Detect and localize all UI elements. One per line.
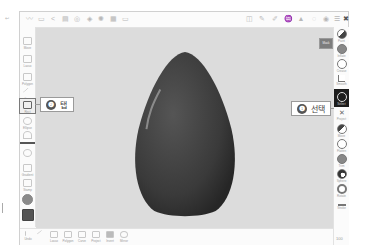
tool-polygon[interactable]: Polygon	[20, 73, 35, 86]
side-mark	[2, 203, 6, 213]
curve-button[interactable]: Curve	[76, 231, 88, 243]
sculpt-canvas[interactable]: Mask	[36, 28, 333, 228]
tool-select[interactable]: Select	[334, 89, 349, 107]
document-icon[interactable]: ▤	[61, 15, 69, 23]
tool-paint[interactable]: Paint	[334, 29, 349, 43]
divider	[20, 142, 35, 144]
curve-icon	[78, 231, 86, 238]
move-brush-icon	[337, 124, 347, 134]
zoom-level: 100	[336, 236, 343, 241]
tool-smooth[interactable]: Smooth	[334, 75, 349, 86]
tool-project[interactable]: ✕Project	[334, 109, 349, 121]
material-icon	[22, 194, 33, 205]
tool-flatten[interactable]: Flatten	[334, 139, 349, 153]
tool-stroke[interactable]: Stroke	[334, 200, 349, 210]
undo-icon	[25, 231, 32, 236]
brush-icon[interactable]: 〰	[25, 15, 33, 23]
smooth-icon	[338, 75, 345, 82]
polygon-button[interactable]: Polygon	[62, 231, 74, 243]
tool-inflate[interactable]: Inflate	[334, 44, 349, 58]
share-icon[interactable]: <	[49, 15, 57, 23]
ruler-icon[interactable]: ▭	[121, 15, 129, 23]
tool-rotate[interactable]: Rotate	[334, 184, 349, 198]
sphere-icon	[337, 169, 347, 179]
curve-icon	[23, 131, 32, 139]
project-button[interactable]: Project	[90, 231, 102, 243]
crease-icon	[337, 59, 347, 69]
stamp-icon	[23, 179, 32, 187]
tool-trim[interactable]: Trim	[334, 154, 349, 168]
mirror-button[interactable]: Mirror	[118, 231, 130, 243]
trim-icon	[337, 154, 347, 164]
light-icon[interactable]: ✺	[97, 15, 105, 23]
layers-list-icon[interactable]: ☰	[333, 15, 341, 23]
tool-crease[interactable]: Crease	[334, 59, 349, 73]
lasso-icon	[23, 55, 32, 63]
egg-model[interactable]	[130, 50, 240, 220]
transform-icon	[23, 149, 32, 157]
fold-icon: ↩	[5, 15, 9, 21]
tool-curve[interactable]	[20, 131, 35, 139]
select-icon	[337, 92, 347, 102]
tool-ellipse[interactable]: Ellipse	[20, 117, 35, 130]
mask-badge[interactable]: Mask	[319, 38, 333, 49]
tool-lasso[interactable]: Lasso	[20, 55, 35, 68]
tool-move[interactable]: Move	[20, 37, 35, 50]
move-icon	[23, 37, 32, 45]
visibility-icon[interactable]: ◉	[322, 15, 330, 23]
undo-history-icon[interactable]: ◫	[245, 15, 253, 23]
ellipse-icon	[23, 117, 32, 125]
gradient-icon	[23, 164, 32, 172]
invert-button[interactable]: Invert	[104, 231, 116, 243]
paint-icon	[337, 29, 347, 39]
grid-icon[interactable]: ▦	[109, 15, 117, 23]
tool-material[interactable]	[20, 194, 35, 205]
flatten-icon[interactable]: ▲	[297, 15, 305, 23]
bottom-toolbar: Undo Lasso Polygon Curve Project Invert …	[20, 228, 333, 245]
rotate-icon	[337, 184, 347, 194]
tool-move-brush[interactable]: Move	[334, 124, 349, 138]
callout-select: ❶ 선택	[291, 101, 331, 116]
flatten-icon	[337, 139, 347, 149]
pen-icon[interactable]: ✎	[258, 15, 266, 23]
mirror-icon	[120, 231, 128, 238]
invert-icon	[106, 231, 114, 238]
tool-rect[interactable]: Rect	[20, 99, 35, 113]
layers-icon[interactable]: ▭	[37, 15, 45, 23]
smooth-icon[interactable]: ♒	[284, 15, 292, 23]
callout-leader	[331, 108, 334, 109]
callout-tap: ❷ 탭	[40, 97, 74, 112]
callout-text: 탭	[60, 99, 67, 110]
callout-text: 선택	[311, 103, 325, 114]
symmetry-icon[interactable]: ◈	[85, 15, 93, 23]
settings-icon[interactable]: ◎	[73, 15, 81, 23]
polygon-icon	[64, 231, 72, 238]
line-icon	[23, 88, 33, 98]
more-icon[interactable]: ✖	[342, 15, 350, 23]
mask-icon[interactable]: ◌	[310, 15, 318, 23]
callout-number: ❷	[46, 100, 56, 110]
top-toolbar: 〰 ▭ < ▤ ◎ ◈ ✺ ▦ ▭ ◫ ✎ ✐ ♒ ▲ ◌ ◉ ☰ ✖	[20, 12, 348, 28]
pinch-icon: ✕	[338, 109, 346, 117]
lasso-icon	[50, 231, 58, 238]
pencil-icon[interactable]: ✐	[271, 15, 279, 23]
tool-sphere[interactable]: Sphere	[334, 169, 349, 183]
callout-number: ❶	[297, 104, 307, 114]
project-icon	[92, 231, 100, 238]
polygon-icon	[23, 73, 32, 81]
inflate-icon	[337, 44, 347, 54]
right-toolbar: Paint Inflate Crease Smooth Select ✕Proj…	[333, 27, 349, 245]
tool-gradient[interactable]: Gradient	[20, 164, 35, 177]
tool-transform[interactable]	[20, 149, 35, 157]
color-swatch-icon	[22, 209, 34, 221]
left-toolbar: Move Lasso Polygon Line Rect Ellipse Gra…	[20, 27, 36, 227]
redo-button[interactable]	[35, 231, 47, 237]
redo-icon	[37, 230, 45, 238]
lasso-button[interactable]: Lasso	[48, 231, 60, 243]
rect-icon	[23, 101, 32, 109]
undo-button[interactable]: Undo	[22, 231, 34, 241]
tool-color[interactable]	[20, 209, 35, 221]
tool-stamp[interactable]: Stamp	[20, 179, 35, 192]
